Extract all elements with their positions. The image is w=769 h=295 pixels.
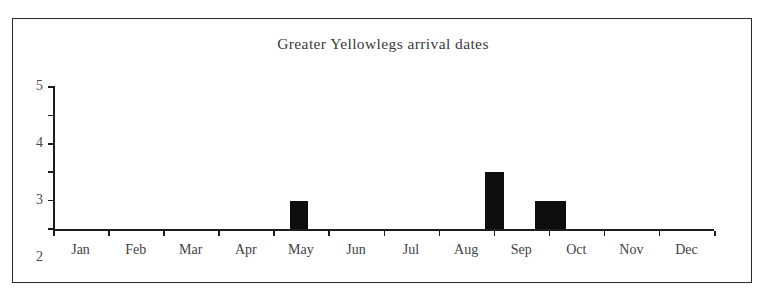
x-tick-label-dec: Dec xyxy=(675,243,698,257)
x-tick-label-oct: Oct xyxy=(566,243,586,257)
x-tick-6 xyxy=(384,231,386,236)
x-tick-label-jun: Jun xyxy=(346,243,365,257)
x-tick-1 xyxy=(108,231,110,236)
x-tick-2 xyxy=(163,231,165,236)
y-tick-label-4: 4 xyxy=(36,136,43,150)
x-tick-label-may: May xyxy=(288,243,314,257)
y-tick-label-3: 3 xyxy=(36,193,43,207)
plot-area: 012345 JanFebMarAprMayJunJulAugSepOctNov… xyxy=(53,87,725,235)
bars-layer xyxy=(53,87,725,229)
x-tick-5 xyxy=(328,231,330,236)
x-tick-label-sep: Sep xyxy=(511,243,532,257)
x-tick-label-mar: Mar xyxy=(179,243,202,257)
x-tick-label-aug: Aug xyxy=(454,243,478,257)
x-tick-label-nov: Nov xyxy=(619,243,643,257)
figure-frame: Greater Yellowlegs arrival dates 012345 … xyxy=(12,18,752,283)
x-tick-10 xyxy=(604,231,606,236)
x-tick-12 xyxy=(714,231,716,236)
bar-1 xyxy=(485,172,504,229)
x-tick-11 xyxy=(659,231,661,236)
x-tick-9 xyxy=(549,231,551,236)
x-tick-label-jul: Jul xyxy=(403,243,419,257)
chart-title: Greater Yellowlegs arrival dates xyxy=(13,35,753,53)
y-tick-label-2: 2 xyxy=(36,250,43,264)
x-tick-8 xyxy=(494,231,496,236)
x-tick-label-apr: Apr xyxy=(235,243,257,257)
x-tick-0 xyxy=(53,231,55,236)
x-tick-4 xyxy=(273,231,275,236)
x-tick-label-jan: Jan xyxy=(71,243,90,257)
scan-margin xyxy=(0,0,769,16)
x-tick-label-feb: Feb xyxy=(125,243,146,257)
x-tick-3 xyxy=(218,231,220,236)
y-tick-label-5: 5 xyxy=(36,79,43,93)
bar-2 xyxy=(535,201,566,229)
bar-0 xyxy=(290,201,308,229)
chart-page: Greater Yellowlegs arrival dates 012345 … xyxy=(0,0,769,295)
x-tick-7 xyxy=(439,231,441,236)
